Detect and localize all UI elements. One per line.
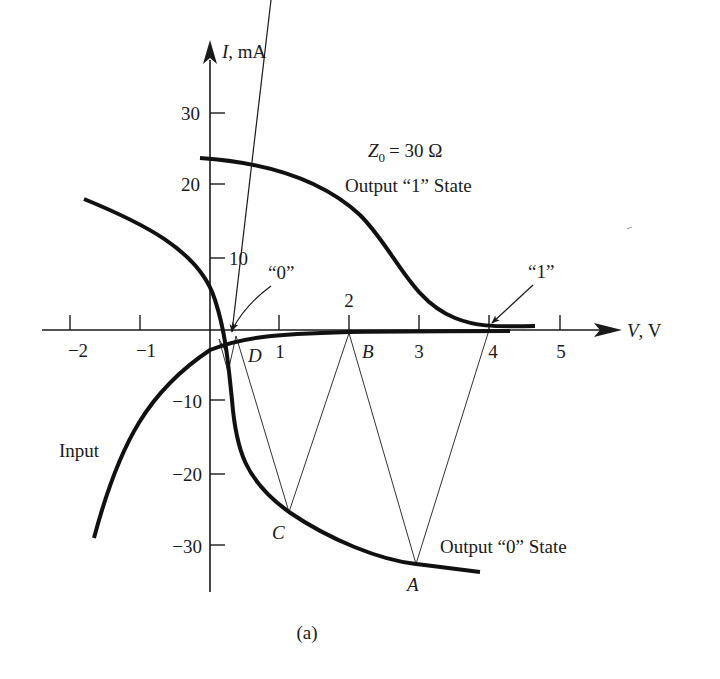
state-0-arrow-line bbox=[232, 286, 271, 330]
y-tick-label: 30 bbox=[181, 103, 200, 124]
iv-characteristic-chart: −2 −1 1 2 3 4 5 30 20 10 −10 −20 −30 I, … bbox=[0, 0, 720, 679]
x-tick-label: −2 bbox=[68, 340, 88, 361]
y-tick-label: −30 bbox=[172, 536, 202, 557]
y-axis-title: I, mA bbox=[221, 41, 267, 62]
y-tick-label: 10 bbox=[229, 248, 248, 269]
x-tick-label: −1 bbox=[136, 340, 156, 361]
figure-caption: (a) bbox=[296, 622, 317, 644]
y-tick-label: 20 bbox=[181, 174, 200, 195]
output-0-state-curve bbox=[84, 199, 480, 572]
output-0-state-label: Output “0” State bbox=[440, 536, 567, 557]
y-tick-label: −20 bbox=[172, 464, 202, 485]
input-label: Input bbox=[59, 440, 100, 461]
state-1-arrow-icon bbox=[492, 285, 533, 323]
state-0-label: “0” bbox=[268, 262, 294, 283]
output-1-state-label: Output “1” State bbox=[345, 175, 472, 196]
x-tick-label: 3 bbox=[414, 341, 424, 362]
point-C-label: C bbox=[272, 522, 285, 543]
x-tick-label: 1 bbox=[275, 341, 285, 362]
input-curve bbox=[94, 331, 510, 538]
state-1-label: “1” bbox=[528, 261, 554, 282]
x-tick-label: 5 bbox=[556, 341, 566, 362]
stray-mark bbox=[627, 227, 632, 229]
point-D-label: D bbox=[247, 345, 262, 366]
x-ticks bbox=[70, 315, 560, 330]
x-tick-label: 4 bbox=[488, 341, 498, 362]
axes bbox=[42, 40, 622, 592]
impedance-label: Z0= 30 Ω bbox=[368, 140, 442, 165]
point-B-label: B bbox=[362, 341, 374, 362]
point-A-label: A bbox=[405, 574, 419, 595]
x-tick-label: 2 bbox=[344, 290, 354, 311]
y-tick-label: −10 bbox=[172, 391, 202, 412]
x-axis-title: V, V bbox=[627, 320, 662, 341]
